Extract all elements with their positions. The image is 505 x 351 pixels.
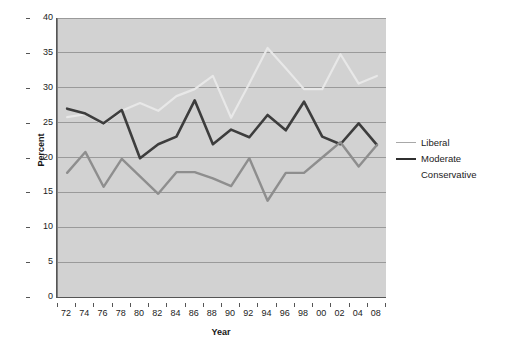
- x-tick-mark: [166, 303, 167, 307]
- y-tick-mark: [26, 53, 30, 54]
- x-tick-mark: [257, 303, 258, 307]
- x-tick-mark: [385, 303, 386, 307]
- x-axis-line: [56, 297, 386, 298]
- chart-container: Percent 4035302520151050 727476788082848…: [0, 0, 505, 351]
- x-tick-mark: [349, 303, 350, 307]
- x-tick-mark: [57, 303, 58, 307]
- y-tick-mark: [26, 262, 30, 263]
- y-tick-mark: [26, 18, 30, 19]
- y-tick-mark: [26, 227, 30, 228]
- x-tick-mark: [367, 303, 368, 307]
- legend-item-conservative[interactable]: Conservative: [396, 166, 504, 182]
- y-tick-label: 20: [31, 153, 53, 162]
- x-tick-mark: [294, 303, 295, 307]
- y-tick-label: 25: [31, 118, 53, 127]
- series-line-liberal: [67, 48, 377, 124]
- series-lines: [58, 18, 386, 297]
- legend-swatch-icon: [396, 142, 416, 143]
- y-tick-label: 35: [31, 48, 53, 57]
- y-tick-mark: [26, 192, 30, 193]
- x-tick-mark: [276, 303, 277, 307]
- plot-area: [57, 18, 386, 297]
- y-tick-mark: [26, 123, 30, 124]
- x-tick-mark: [203, 303, 204, 307]
- x-tick-mark: [112, 303, 113, 307]
- legend-item-moderate[interactable]: Moderate: [396, 150, 504, 166]
- x-tick-mark: [93, 303, 94, 307]
- x-tick-mark: [239, 303, 240, 307]
- y-tick-label: 5: [31, 257, 53, 266]
- x-tick-mark: [185, 303, 186, 307]
- x-tick-mark: [221, 303, 222, 307]
- x-axis-tick-labels: 727476788082848688909294969800020408: [57, 303, 385, 319]
- legend: LiberalModerateConservative: [396, 134, 504, 182]
- y-tick-mark: [26, 158, 30, 159]
- x-tick-mark: [148, 303, 149, 307]
- y-tick-label: 15: [31, 187, 53, 196]
- y-axis-line: [56, 18, 57, 298]
- y-tick-label: 0: [31, 292, 53, 301]
- x-tick-mark: [75, 303, 76, 307]
- y-tick-mark: [26, 297, 30, 298]
- legend-label: Conservative: [421, 167, 476, 183]
- y-tick-label: 10: [31, 222, 53, 231]
- legend-swatch-icon: [396, 158, 416, 160]
- y-tick-label: 40: [31, 13, 53, 22]
- y-tick-mark: [26, 88, 30, 89]
- x-tick-label: 08: [364, 308, 388, 318]
- legend-label: Moderate: [421, 151, 461, 167]
- x-axis-title: Year: [57, 327, 385, 337]
- legend-label: Liberal: [421, 135, 450, 151]
- legend-item-liberal[interactable]: Liberal: [396, 134, 504, 150]
- x-tick-mark: [330, 303, 331, 307]
- x-tick-mark: [312, 303, 313, 307]
- y-tick-label: 30: [31, 83, 53, 92]
- x-tick-mark: [130, 303, 131, 307]
